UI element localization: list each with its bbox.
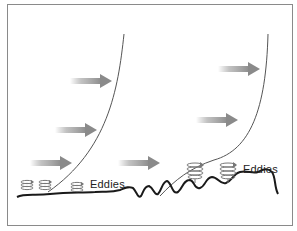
wind-arrow-icon <box>30 156 72 170</box>
ground-surface-line <box>17 169 278 197</box>
left-velocity-profile-curve <box>48 34 124 192</box>
eddy-icon <box>220 162 237 183</box>
wind-arrow-icon <box>196 113 238 127</box>
eddy-icon <box>71 182 84 192</box>
wind-arrow-icon <box>55 123 97 137</box>
eddy-icon <box>21 180 34 190</box>
wind-arrow-icon <box>70 74 112 88</box>
eddies-label-smooth: Eddies <box>90 178 125 190</box>
eddies-label-rough: Eddies <box>243 163 278 175</box>
eddy-icon <box>39 180 52 190</box>
diagram-canvas <box>0 0 297 231</box>
wind-arrow-icon <box>118 156 160 170</box>
wind-arrow-icon <box>218 62 260 76</box>
